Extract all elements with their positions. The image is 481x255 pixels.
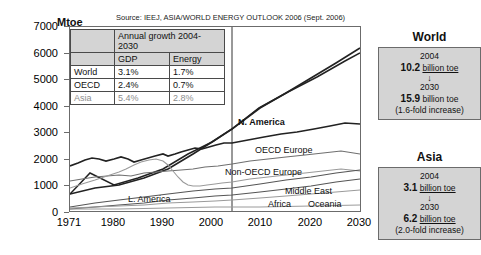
table-row-header-columns: GDP Energy [71,53,225,66]
x-tick-label: 2000 [191,216,231,228]
asia-summary-panel: Asia 2004 3.1 billion toe ↓ 2030 6.2 bil… [378,150,481,240]
series-line-non-oecd-europe [70,159,360,188]
world-value-to-unit: billion toe [422,94,458,104]
x-tick-label: 1990 [142,216,182,228]
table-corner-cell-2 [71,53,115,66]
x-tick-label: 1971 [49,216,89,228]
asia-year-from: 2004 [381,171,478,182]
table-row: World 3.1% 1.7% [71,66,225,79]
table-row-header-title: Annual growth 2004-2030 [71,30,225,53]
asia-increase-note: (2.0-fold increase) [381,225,478,236]
series-label-oceania: Oceania [308,199,342,209]
world-value-from-number: 10.2 [401,62,420,73]
world-increase-note: (1.6-fold increase) [381,105,478,116]
x-tick-label: 2010 [240,216,280,228]
table-header-energy: Energy [170,53,225,66]
energy-outlook-chart: Mtoe Source: IEEJ, ASIA/WORLD ENERGY OUT… [0,0,366,255]
series-line-n-america [70,123,360,166]
asia-value-from-number: 3.1 [403,182,417,193]
y-tick-label: 6000 [6,47,58,59]
world-value-from-unit: billion toe [422,63,458,73]
table-cell-energy: 2.8% [170,92,225,105]
chart-screenshot: Mtoe Source: IEEJ, ASIA/WORLD ENERGY OUT… [0,0,481,255]
source-note: Source: IEEJ, ASIA/WORLD ENERGY OUTLOOK … [116,13,345,22]
world-value-to-number: 15.9 [401,93,420,104]
asia-value-to-number: 6.2 [403,213,417,224]
table-cell-gdp: 5.4% [115,92,170,105]
table-header-title: Annual growth 2004-2030 [115,30,225,53]
series-label-africa: Africa [268,199,291,209]
y-tick-mark [64,212,69,213]
y-tick-label: 2000 [6,153,58,165]
table-corner-cell [71,30,115,53]
table-cell-gdp: 2.4% [115,79,170,92]
annual-growth-table: Annual growth 2004-2030 GDP Energy World… [70,29,225,105]
world-panel-title: World [378,30,481,44]
table-cell-gdp: 3.1% [115,66,170,79]
table-cell-label: Asia [71,92,115,105]
y-tick-label: 7000 [6,20,58,32]
world-summary-panel: World 2004 10.2 billion toe ↓ 2030 15.9 … [378,30,481,120]
table-cell-energy: 0.7% [170,79,225,92]
series-label-oecd-europe: OECD Europe [255,145,313,155]
x-tick-label: 1980 [93,216,133,228]
y-tick-label: 4000 [6,100,58,112]
y-tick-label: 5000 [6,73,58,85]
asia-panel-title: Asia [378,150,481,164]
series-label-l-america: L. America [128,194,171,204]
world-panel-box: 2004 10.2 billion toe ↓ 2030 15.9 billio… [378,47,481,120]
world-value-to: 15.9 billion toe [381,93,478,105]
y-tick-label: 3000 [6,126,58,138]
table-cell-label: OECD [71,79,115,92]
world-year-from: 2004 [381,51,478,62]
table-row: Asia 5.4% 2.8% [71,92,225,105]
table-cell-label: World [71,66,115,79]
series-label-n-america: N. America [238,117,285,127]
table-cell-energy: 1.7% [170,66,225,79]
asia-arrow-icon: ↓ [381,194,478,202]
asia-value-to: 6.2 billion toe [381,213,478,225]
y-tick-label: 1000 [6,179,58,191]
asia-value-from-unit: billion toe [420,183,456,193]
asia-year-to: 2030 [381,202,478,213]
world-year-to: 2030 [381,82,478,93]
asia-panel-box: 2004 3.1 billion toe ↓ 2030 6.2 billion … [378,167,481,240]
series-label-non-oecd-europe: Non-OECD Europe [225,167,302,177]
table-row: OECD 2.4% 0.7% [71,79,225,92]
x-tick-label: 2030 [339,216,379,228]
x-tick-label: 2020 [290,216,330,228]
asia-value-to-unit: billion toe [420,214,456,224]
world-arrow-icon: ↓ [381,74,478,82]
table-header-gdp: GDP [115,53,170,66]
series-label-middle-east: Middle East [285,186,332,196]
